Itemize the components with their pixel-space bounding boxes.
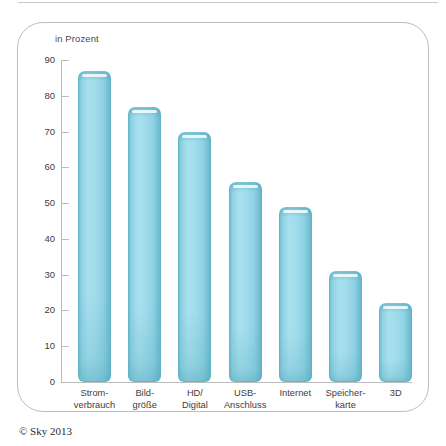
bar xyxy=(229,182,262,382)
bars-layer xyxy=(17,22,429,412)
bar-cap-highlight xyxy=(383,306,408,309)
x-axis-label-line: Anschluss xyxy=(208,400,282,412)
bar xyxy=(279,207,312,382)
bar-cap-highlight xyxy=(132,110,157,113)
bar xyxy=(128,107,161,382)
copyright-notice: © Sky 2013 xyxy=(19,425,72,437)
bar xyxy=(379,303,412,382)
bar-cap-highlight xyxy=(82,74,107,77)
chart-plot-area: 9080706050403020100 Strom-verbrauchBild-… xyxy=(17,22,429,412)
bar xyxy=(329,271,362,382)
bar-cap-highlight xyxy=(333,274,358,277)
x-axis-label-line: 3D xyxy=(359,388,433,400)
x-axis-label: 3D xyxy=(359,388,433,400)
bar-cap-highlight xyxy=(283,210,308,213)
bar-cap-highlight xyxy=(233,185,258,188)
bar xyxy=(178,132,211,382)
bar-cap-highlight xyxy=(182,135,207,138)
top-divider xyxy=(18,2,438,3)
bar xyxy=(78,71,111,382)
x-axis-label-line: karte xyxy=(309,400,383,412)
